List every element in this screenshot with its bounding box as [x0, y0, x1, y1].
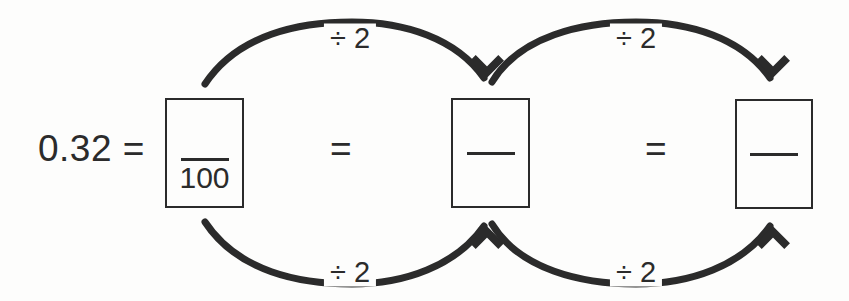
fraction-3-bar: [750, 153, 798, 156]
fraction-1-denominator[interactable]: 100: [179, 163, 229, 193]
fraction-box-3[interactable]: [735, 99, 813, 209]
equals-sign-1: =: [330, 130, 352, 167]
fraction-2-bar: [467, 152, 515, 155]
equals-sign-2: =: [645, 130, 667, 167]
lead-expression: 0.32 =: [38, 130, 145, 167]
divide-label-top-1: ÷ 2: [324, 24, 376, 53]
fraction-box-2[interactable]: [451, 98, 530, 208]
fraction-box-1[interactable]: 100: [165, 98, 244, 208]
divide-label-bottom-1: ÷ 2: [324, 258, 376, 287]
divide-label-bottom-2: ÷ 2: [610, 258, 662, 287]
worksheet-diagram: 0.32 = 100 = = ÷ 2 ÷ 2 ÷ 2 ÷ 2: [0, 0, 849, 301]
fraction-2: [453, 100, 528, 206]
fraction-3: [737, 101, 811, 207]
divide-label-top-2: ÷ 2: [610, 24, 662, 53]
fraction-1: 100: [167, 100, 242, 206]
